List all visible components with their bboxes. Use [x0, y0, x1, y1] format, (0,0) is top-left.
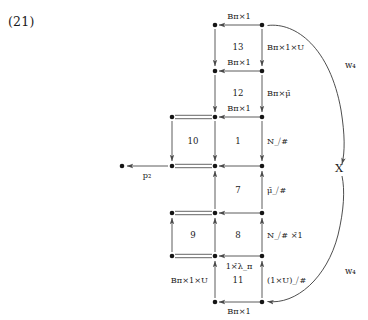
node-r6-center [213, 254, 218, 259]
node-r5-right [260, 211, 265, 216]
arc-label-X: X [335, 161, 344, 175]
node-r7-right [260, 300, 265, 305]
label-right-r2-r3: Bπ×μ̄ [267, 88, 291, 98]
row-2-group: Bπ×1 [213, 57, 265, 73]
arc-label-bottom-w4: w₄ [345, 266, 356, 276]
label-left-r6-r7: Bπ×1×U [171, 275, 208, 285]
cell-label-8: 8 [235, 230, 240, 240]
node-r3-center [213, 115, 218, 120]
row-1-group: Bπ×1 [213, 11, 265, 27]
row-7-group: Bπ×1 [213, 300, 265, 316]
label-row7-center: Bπ×1 [227, 306, 250, 316]
node-r5-left [170, 211, 175, 216]
label-right-r6-r7: (1×U)_⧸# [267, 275, 306, 285]
node-r3-right [260, 115, 265, 120]
label-right-r5-r6: N_⧸# ×̄1 [267, 230, 303, 240]
row-5-group [170, 211, 265, 216]
label-right-r1-r2: Bπ×1×U [267, 42, 304, 52]
node-r2-center [213, 69, 218, 74]
cell-10-and-1-group: 10 1 N_⧸# [172, 121, 288, 161]
label-right-r3-r4: N_⧸# [267, 136, 288, 146]
label-row1-center: Bπ×1 [227, 11, 250, 21]
cell-7-group: 7 μ̄_⧸# [215, 171, 286, 209]
node-r7-center [213, 300, 218, 305]
label-row2-center: Bπ×1 [227, 57, 250, 67]
diagram-page: (21) Bπ×1 13 Bπ×1×U Bπ×1 [0, 0, 368, 320]
node-r4-left [170, 164, 175, 169]
cell-label-13: 13 [233, 42, 244, 52]
commutative-diagram: Bπ×1 13 Bπ×1×U Bπ×1 12 Bπ×μ̄ [0, 0, 368, 320]
cell-label-9: 9 [190, 230, 195, 240]
node-r1-center [213, 23, 218, 28]
cell-label-10: 10 [188, 136, 199, 146]
outer-arc-group: w₄ X w₄ [268, 25, 357, 302]
cell-label-7: 7 [235, 185, 240, 195]
node-r6-left [170, 254, 175, 259]
node-r1-right [260, 23, 265, 28]
row-3-group: Bπ×1 [170, 103, 265, 119]
label-row4-p2: p₂ [143, 170, 152, 180]
node-r3-left [170, 115, 175, 120]
cell-9-and-8-group: 9 8 N_⧸# ×̄1 [172, 218, 303, 252]
cell-label-1: 1 [235, 136, 240, 146]
label-right-r4-r5: μ̄_⧸# [267, 185, 286, 195]
arc-label-top-w4: w₄ [345, 60, 356, 70]
cell-label-11: 11 [233, 275, 244, 285]
node-r4-farleft [120, 164, 125, 169]
node-r2-right [260, 69, 265, 74]
node-r5-center [213, 211, 218, 216]
label-row3-center: Bπ×1 [227, 103, 250, 113]
node-r6-right [260, 254, 265, 259]
node-r4-right [260, 164, 265, 169]
node-r4-center [213, 164, 218, 169]
row-6-group: 1×̄λ_π [170, 254, 265, 271]
cell-label-12: 12 [233, 88, 244, 98]
label-row6-center: 1×̄λ_π [226, 261, 253, 271]
row-4-group: p₂ [120, 164, 265, 180]
